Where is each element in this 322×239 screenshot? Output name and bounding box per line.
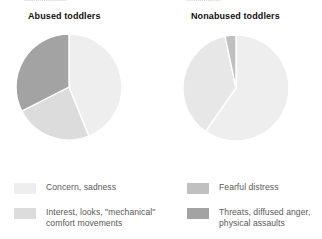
legend-item-interest: Interest, looks, "mechanical" comfort mo… [14, 207, 155, 228]
legend-label-fearful: Fearful distress [219, 182, 279, 193]
scan-artifact-top-text: ...................... .................… [0, 0, 322, 8]
legend-swatch-concern [14, 183, 36, 194]
legend-item-fearful: Fearful distress [187, 182, 279, 194]
legend-item-threats: Threats, diffused anger, physical assaul… [187, 207, 310, 228]
legend: Concern, sadness Interest, looks, "mecha… [0, 180, 322, 239]
legend-label-concern: Concern, sadness [46, 182, 116, 193]
legend-swatch-fearful [187, 183, 209, 194]
pie-chart-abused-toddlers [15, 33, 123, 141]
legend-label-interest: Interest, looks, "mechanical" comfort mo… [46, 207, 155, 228]
legend-label-threats: Threats, diffused anger, physical assaul… [219, 207, 310, 228]
legend-swatch-threats [187, 208, 209, 219]
chart-title-nonabused: Nonabused toddlers [191, 11, 280, 21]
legend-swatch-interest [14, 208, 36, 219]
pie-chart-nonabused-toddlers [182, 34, 290, 142]
legend-item-concern: Concern, sadness [14, 182, 116, 194]
scan-artifact-fragment-right: .................. [186, 0, 221, 2]
scan-artifact-fragment-left: ...................... [24, 0, 67, 2]
chart-title-abused: Abused toddlers [28, 11, 101, 21]
